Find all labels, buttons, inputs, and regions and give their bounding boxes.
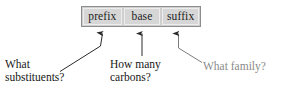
- callout-label-carbons-line1: How many: [110, 58, 161, 71]
- callout-label-carbons: How many carbons?: [110, 58, 161, 83]
- leader-line-substituents: [60, 34, 103, 72]
- callout-label-substituents-line1: What: [5, 58, 64, 71]
- callout-label-family: What family?: [203, 60, 266, 73]
- callout-label-substituents: What substituents?: [5, 58, 64, 83]
- name-structure-box: prefix base suffix: [81, 6, 201, 27]
- nomenclature-diagram: prefix base suffix What substituents? Ho…: [0, 0, 281, 89]
- name-cell-suffix: suffix: [162, 8, 199, 25]
- name-cell-suffix-label: suffix: [167, 11, 194, 23]
- callout-label-carbons-line2: carbons?: [110, 71, 161, 84]
- name-cell-base: base: [124, 8, 161, 25]
- callout-label-family-line1: What family?: [203, 60, 266, 73]
- name-cell-base-label: base: [132, 11, 153, 23]
- name-cell-prefix-label: prefix: [88, 11, 116, 23]
- name-cell-prefix: prefix: [83, 8, 122, 25]
- callout-label-substituents-line2: substituents?: [5, 71, 64, 84]
- leader-line-family: [179, 34, 203, 63]
